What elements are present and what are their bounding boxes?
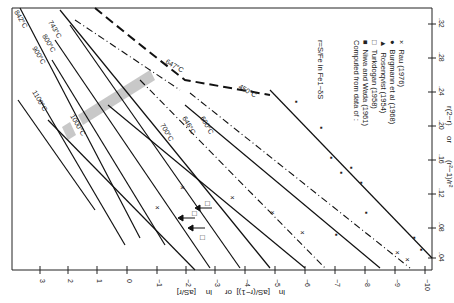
y-tick-label: .16 [438, 154, 445, 164]
y-tick-label: .08 [438, 222, 445, 232]
legend-item: ●Burgmann et al (1968) [388, 40, 397, 125]
x-tick-label: −1 [156, 279, 163, 287]
phase-boundary-curve [95, 8, 270, 95]
marker: ▪ [330, 153, 333, 162]
legend: r=S/Fe in Fe1−δS Computed from data of :… [316, 40, 406, 126]
y-label-part: or [445, 136, 454, 143]
x-tick-label: −7 [334, 279, 341, 287]
marker: ▪ [320, 123, 323, 132]
marker: ▪ [413, 233, 416, 242]
marker: ▪ [420, 245, 423, 254]
y-label-part: r(2−r) [445, 106, 454, 126]
marker: ▪ [350, 163, 353, 172]
marker: × [230, 193, 235, 202]
marker: □ [200, 233, 205, 242]
y-tick-label: .24 [438, 86, 445, 96]
marker: ▪ [335, 230, 338, 239]
marker: × [155, 203, 160, 212]
x-label-part: ln [206, 288, 212, 297]
x-label-part: or [225, 288, 232, 297]
x-tick-label: −8 [364, 279, 371, 287]
legend-item: ■Niwa and Wada (1961) [361, 40, 370, 126]
marker: × [300, 228, 305, 237]
legend-item: ▲Rosenqvist (1954) [379, 40, 388, 114]
x-axis-label: ln [aS/(r−1)] or ln [aS/r] [177, 288, 285, 297]
label-600C: 600°C [199, 115, 215, 135]
plot-frame [12, 8, 432, 270]
isotherms [18, 8, 432, 270]
x-tick-label: −10 [424, 279, 431, 291]
legend-item: □Turkdogan (1958) [370, 40, 379, 109]
x-label-part: ln [279, 288, 285, 297]
x-label-part: [aS/(r−1)] [236, 288, 270, 297]
y-label-part: (r²−1)/r² [445, 160, 454, 188]
marker: ▪ [295, 97, 298, 106]
x-label-part: [aS/r] [177, 288, 196, 297]
label-842C: 842°C [13, 9, 29, 29]
x-tick-label: 3 [39, 279, 46, 283]
x-tick-label: −4 [244, 279, 251, 287]
x-tick-label: −6 [304, 279, 311, 287]
marker: ▪ [365, 208, 368, 217]
y-tick-label: .20 [438, 120, 445, 130]
data-markers: ▪ ▪ ▪ ▪ ▪ ▪ ▪ ▪ ▪ ▪ □ □ □ × × × × × × × [155, 97, 423, 264]
marker: × [180, 183, 185, 192]
marker: × [270, 208, 275, 217]
x-tick-label: −2 [185, 279, 192, 287]
label-1100C: 1100°C [31, 89, 49, 112]
y-tick-label: .12 [438, 188, 445, 198]
y-tick-label: .04 [438, 252, 445, 262]
marker: ▪ [340, 168, 343, 177]
y-tick-label: .28 [438, 52, 445, 62]
label-646C: 646°C [181, 115, 197, 135]
x-tick-label: 2 [67, 279, 74, 283]
x-tick-label: 0 [126, 279, 133, 283]
x-tick-labels: 3 2 1 0 −1 −2 −3 −4 −5 −6 −7 −8 −9 −10 [39, 279, 431, 291]
chart: 3 2 1 0 −1 −2 −3 −4 −5 −6 −7 −8 −9 −10 l… [0, 0, 454, 303]
legend-title: Computed from data of : [352, 40, 361, 121]
label-800C: 800°C [41, 33, 57, 53]
y-tick-label: .32 [438, 18, 445, 28]
x-tick-label: −9 [394, 279, 401, 287]
x-tick-label: 1 [96, 279, 103, 283]
marker: □ [192, 209, 197, 218]
marker: × [405, 255, 410, 264]
x-tick-label: −5 [274, 279, 281, 287]
chart-title: r=S/Fe in Fe1−δS [316, 40, 325, 99]
x-tick-label: −3 [214, 279, 221, 287]
legend-item: ×Rau (1976) [397, 40, 406, 87]
y-tick-labels: .32 .28 .24 .20 .16 .12 .08 .04 [438, 18, 445, 262]
marker: □ [205, 199, 210, 208]
y-axis-label: (r²−1)/r² or r(2−r) [445, 106, 454, 188]
marker: ▪ [360, 178, 363, 187]
marker: × [395, 248, 400, 257]
label-700C: 700°C [159, 122, 175, 142]
